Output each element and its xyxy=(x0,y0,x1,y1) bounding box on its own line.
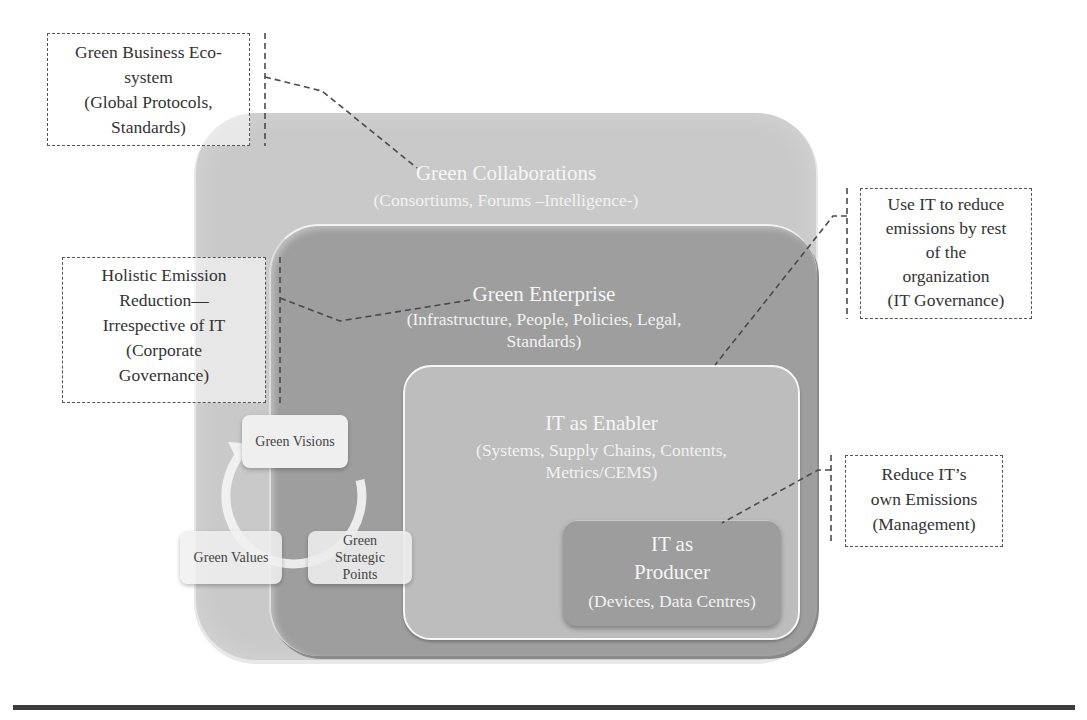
bottom-rule-divider xyxy=(13,705,1075,710)
reduce-it-connector xyxy=(722,470,831,523)
connector-lines xyxy=(0,0,1087,720)
holistic-connector xyxy=(280,298,470,321)
ecosystem-connector xyxy=(265,77,417,168)
use-it-connector xyxy=(715,216,847,365)
